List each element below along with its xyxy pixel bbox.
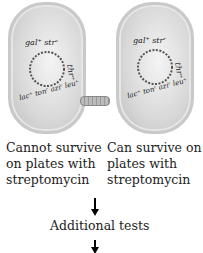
caption-left-line-1: Cannot survive: [6, 140, 102, 156]
caption-right: Can survive on plates with streptomycin: [107, 140, 202, 188]
plasmid-chromosome-right: gal⁺ strʳ thr⁺ lac⁺ tonʳ aziʳ leu⁺: [119, 5, 191, 131]
caption-right-line-3: streptomycin: [107, 172, 202, 188]
gene-label-top-left: gal⁺ strˢ: [25, 38, 58, 47]
down-arrow-icon: [94, 240, 96, 248]
caption-left-line-2: on plates with: [6, 156, 102, 172]
gene-label-bottom-left: lac⁺ tonʳ aziʳ leu⁺: [18, 78, 80, 102]
down-arrow-icon: [94, 198, 96, 210]
conjugation-pilus: [80, 96, 110, 106]
additional-tests-label: Additional tests: [50, 218, 149, 233]
caption-left-line-3: streptomycin: [6, 172, 102, 188]
gene-label-top-right: gal⁺ strʳ: [133, 36, 166, 45]
plasmid-chromosome-left: gal⁺ strˢ thr⁺ lac⁺ tonʳ aziʳ leu⁺: [11, 5, 83, 131]
gene-label-bottom-right: lac⁺ tonʳ aziʳ leu⁺: [126, 76, 188, 100]
caption-right-line-2: plates with: [107, 156, 202, 172]
caption-right-line-1: Can survive on: [107, 140, 202, 156]
bacterial-cell-right: gal⁺ strʳ thr⁺ lac⁺ tonʳ aziʳ leu⁺: [116, 2, 194, 134]
caption-left: Cannot survive on plates with streptomyc…: [6, 140, 102, 188]
bacterial-cell-left: gal⁺ strˢ thr⁺ lac⁺ tonʳ aziʳ leu⁺: [8, 2, 86, 134]
